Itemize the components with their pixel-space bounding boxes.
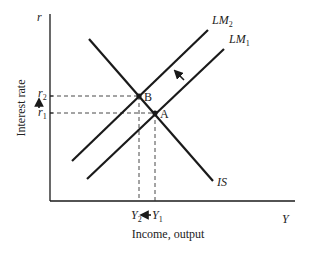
point-a-marker: [152, 110, 157, 115]
guide-lines: [50, 96, 155, 201]
y-axis-symbol: r: [37, 10, 42, 24]
axes: [50, 14, 295, 201]
lm-shift-arrow-icon: [177, 73, 184, 80]
is-label: IS: [216, 175, 227, 189]
point-b-marker: [136, 93, 141, 98]
x-axis-symbol: Y: [282, 212, 290, 226]
point-b-label: B: [144, 90, 152, 104]
lm1-label: LM1: [228, 32, 250, 48]
x-axis-label: Income, output: [132, 227, 205, 241]
r2-tick-label: r2: [38, 86, 47, 102]
y-axis-label: Interest rate: [14, 80, 28, 137]
shift-arrows: [39, 73, 184, 215]
y2-tick-label: Y2: [131, 208, 142, 224]
is-lm-diagram: r Y Interest rate Income, output B A LM2…: [0, 0, 310, 256]
lm2-label: LM2: [211, 13, 233, 29]
point-a-label: A: [160, 107, 169, 121]
y1-tick-label: Y1: [152, 208, 163, 224]
curves: [72, 30, 224, 181]
